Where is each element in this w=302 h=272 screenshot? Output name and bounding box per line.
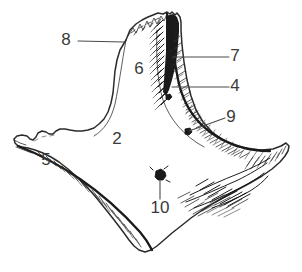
label-2: 2 [112,129,121,148]
label-9: 9 [226,107,235,126]
anatomical-line-drawing: 8 6 7 4 9 2 5 10 [0,0,302,272]
label-6: 6 [134,59,143,78]
figure-container: 8 6 7 4 9 2 5 10 [0,0,302,272]
label-8: 8 [61,30,70,49]
label-10: 10 [151,198,170,217]
leader-line-8 [78,41,124,42]
label-7: 7 [230,46,239,65]
label-4: 4 [230,76,239,95]
label-5: 5 [41,150,50,169]
